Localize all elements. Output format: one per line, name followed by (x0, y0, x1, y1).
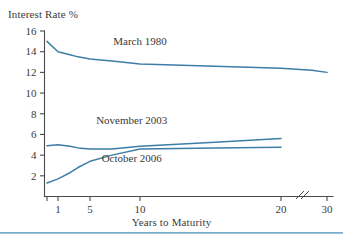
series-annotation-october-2006: October 2006 (102, 152, 163, 164)
y-axis-tick-label: 16 (26, 25, 38, 37)
y-axis-tick-label: 6 (31, 128, 37, 140)
x-axis-ticks (47, 197, 327, 202)
x-axis-tick-label: 30 (322, 203, 334, 215)
y-axis-tick-label: 14 (26, 45, 38, 57)
series-annotation-march-1980: March 1980 (113, 35, 167, 47)
series-lines-group (47, 41, 327, 183)
axis-break-mark (296, 191, 309, 199)
x-axis-title: Years to Maturity (0, 216, 343, 228)
x-axis-tick-label: 10 (135, 203, 147, 215)
bottom-rule (0, 232, 343, 234)
x-axis-tick-labels: 15102030 (55, 203, 333, 215)
series-annotation-november-2003: November 2003 (96, 114, 168, 126)
y-axis-tick-label: 8 (31, 108, 37, 120)
series-line-march-1980 (47, 41, 327, 72)
x-axis-tick-label: 20 (276, 203, 288, 215)
series-line-october-2006 (47, 147, 281, 183)
x-axis-tick-label: 1 (55, 203, 61, 215)
yield-curve-figure: Interest Rate % 246810121416 15102030 Ma… (0, 0, 343, 239)
y-axis-ticks (40, 31, 45, 176)
y-axis-tick-labels: 246810121416 (26, 25, 38, 182)
chart-canvas: 246810121416 15102030 March 1980November… (0, 0, 343, 239)
y-axis-tick-label: 10 (26, 87, 38, 99)
y-axis-tick-label: 2 (31, 170, 37, 182)
x-axis-tick-label: 5 (87, 203, 93, 215)
y-axis-tick-label: 4 (31, 149, 37, 161)
y-axis-tick-label: 12 (26, 66, 37, 78)
